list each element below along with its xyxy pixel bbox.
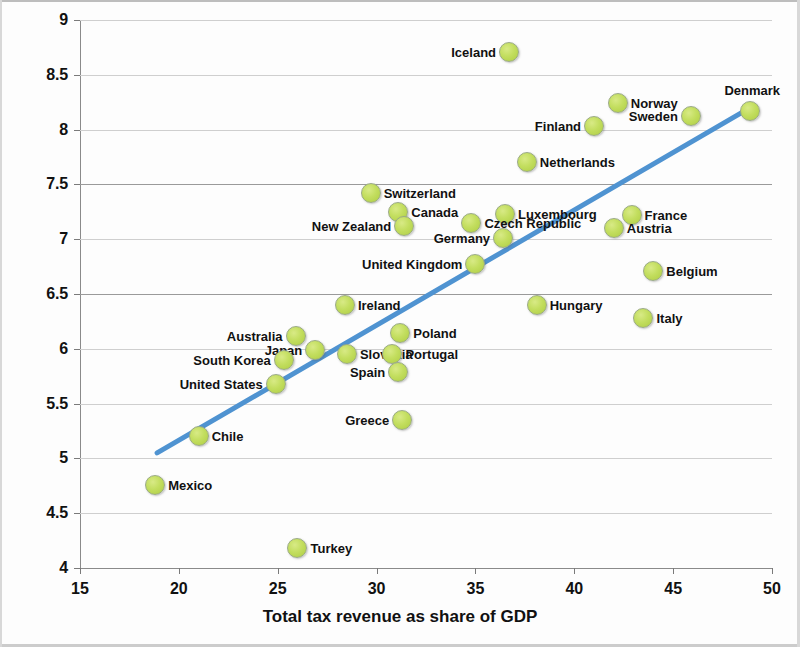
x-tick-mark [673,568,674,574]
gridline [80,458,772,459]
x-tick-mark [80,568,81,574]
data-point-label: Denmark [724,82,780,97]
data-point[interactable] [465,254,485,274]
data-point-label: South Korea [193,352,270,367]
y-tick-mark [74,349,80,350]
y-tick-label: 8.5 [46,66,68,84]
gridline [80,75,772,76]
data-point-label: Finland [535,119,581,134]
gridline [80,239,772,240]
y-tick-mark [74,513,80,514]
data-point[interactable] [274,350,294,370]
data-point[interactable] [681,106,701,126]
gridline [80,513,772,514]
y-tick-label: 4 [59,559,68,577]
x-tick-mark [278,568,279,574]
x-tick-mark [179,568,180,574]
data-point[interactable] [604,218,624,238]
plot-area: 44.555.566.577.588.59 1520253035404550 I… [80,20,772,568]
y-tick-mark [74,294,80,295]
y-tick-label: 7 [59,230,68,248]
page-edge-left [0,0,2,647]
y-tick-label: 7.5 [46,175,68,193]
y-tick-label: 9 [59,11,68,29]
data-point-label: Netherlands [540,155,615,170]
data-point[interactable] [361,183,381,203]
x-tick-label: 45 [664,580,682,598]
x-tick-label: 30 [368,580,386,598]
y-tick-mark [74,184,80,185]
data-point-label: Poland [413,326,456,341]
data-point[interactable] [493,228,513,248]
x-tick-label: 15 [71,580,89,598]
x-tick-mark [377,568,378,574]
data-point-label: Mexico [168,477,212,492]
data-point[interactable] [388,362,408,382]
data-point-label: United States [180,376,263,391]
data-point-label: Turkey [310,541,352,556]
data-point[interactable] [287,538,307,558]
x-tick-label: 50 [763,580,781,598]
x-tick-label: 20 [170,580,188,598]
data-point-label: Italy [656,311,682,326]
data-point[interactable] [499,42,519,62]
x-tick-mark [574,568,575,574]
data-point[interactable] [608,93,628,113]
data-point-label: Germany [434,231,490,246]
data-point[interactable] [337,344,357,364]
y-tick-mark [74,458,80,459]
data-point-label: New Zealand [312,219,391,234]
y-tick-label: 6.5 [46,285,68,303]
data-point[interactable] [392,410,412,430]
data-point-label: Spain [350,364,385,379]
data-point[interactable] [633,308,653,328]
x-tick-mark [772,568,773,574]
data-point[interactable] [584,116,604,136]
y-tick-label: 4.5 [46,504,68,522]
data-point-label: Hungary [550,297,603,312]
page-edge-top [0,0,800,2]
data-point[interactable] [390,323,410,343]
y-tick-mark [74,239,80,240]
y-tick-label: 8 [59,121,68,139]
data-point-label: Portugal [405,347,458,362]
data-point[interactable] [394,216,414,236]
y-tick-mark [74,130,80,131]
gridline [80,20,772,21]
x-tick-mark [475,568,476,574]
x-axis-title: Total tax revenue as share of GDP [263,607,538,627]
data-point[interactable] [145,475,165,495]
data-point-label: Ireland [358,297,401,312]
data-point-label: Australia [227,328,283,343]
x-axis-line [80,568,773,569]
data-point-label: Belgium [666,263,717,278]
data-point[interactable] [740,101,760,121]
y-tick-label: 5.5 [46,395,68,413]
data-point-label: Chile [212,429,244,444]
y-tick-mark [74,20,80,21]
gridline [80,130,772,131]
data-point[interactable] [643,261,663,281]
x-tick-label: 40 [565,580,583,598]
data-point-label: Iceland [451,44,496,59]
gridline [80,294,772,295]
data-point-label: Greece [345,413,389,428]
data-point[interactable] [305,340,325,360]
data-point-label: United Kingdom [362,257,462,272]
data-point-label: Canada [411,204,458,219]
data-point-label: Sweden [629,109,678,124]
data-point[interactable] [527,295,547,315]
chart-figure: Index of Social Justice Total tax revenu… [0,0,800,647]
y-tick-label: 6 [59,340,68,358]
gridline [80,404,772,405]
data-point[interactable] [517,152,537,172]
y-tick-mark [74,404,80,405]
data-point-label: Austria [627,221,672,236]
data-point[interactable] [189,426,209,446]
data-point[interactable] [335,295,355,315]
data-point[interactable] [266,374,286,394]
y-tick-label: 5 [59,449,68,467]
y-tick-mark [74,75,80,76]
x-tick-label: 35 [467,580,485,598]
x-tick-label: 25 [269,580,287,598]
